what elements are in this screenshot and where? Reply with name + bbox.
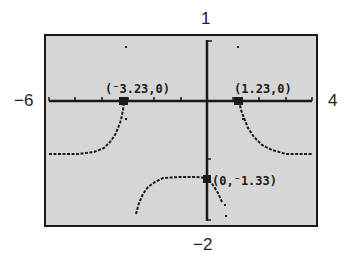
point-label-3: (0,⁻1.33) bbox=[212, 174, 277, 188]
point-marker-2 bbox=[234, 97, 243, 105]
point-marker-3 bbox=[203, 175, 211, 183]
asymptote-dots bbox=[125, 46, 244, 217]
graph-plot: (⁻3.23,0) (1.23,0) (0,⁻1.33) bbox=[0, 0, 346, 261]
point-label-2: (1.23,0) bbox=[234, 82, 292, 96]
point-marker-1 bbox=[119, 97, 128, 105]
point-label-1: (⁻3.23,0) bbox=[105, 82, 170, 96]
right-branch bbox=[239, 101, 312, 154]
left-branch bbox=[49, 101, 124, 154]
